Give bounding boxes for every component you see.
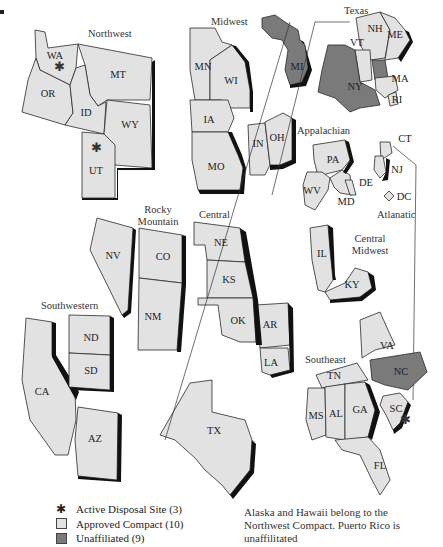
state-ms: MS: [308, 410, 323, 421]
region-atlantic: [374, 142, 416, 434]
unaffiliated-swatch-icon: [52, 533, 70, 544]
approved-swatch-icon: [52, 518, 70, 529]
legend-item-unaffiliated: Unaffiliated (9): [52, 531, 184, 546]
region-central: [194, 222, 294, 378]
state-ne: NE: [214, 237, 228, 248]
state-md: MD: [338, 196, 355, 207]
region-southwestern: [22, 315, 122, 482]
state-tn: TN: [327, 370, 341, 381]
region-label-appalachian: Appalachian: [297, 125, 350, 137]
legend-label: Approved Compact (10): [76, 518, 184, 530]
state-nd: ND: [83, 332, 98, 343]
region-label-central-midwest: Central Midwest: [345, 233, 395, 257]
region-label-southwestern: Southwestern: [41, 300, 98, 312]
state-fl: FL: [374, 460, 386, 471]
state-wi: WI: [224, 75, 237, 86]
state-oh: OH: [269, 132, 284, 143]
state-va: VA: [380, 340, 394, 351]
state-nv: NV: [105, 250, 120, 261]
legend-label: Active Disposal Site (3): [76, 503, 182, 515]
state-ny: NY: [347, 81, 362, 92]
state-la: LA: [264, 357, 278, 368]
legend-item-approved: Approved Compact (10): [52, 517, 184, 532]
state-dc: DC: [397, 191, 412, 202]
state-vt: VT: [350, 37, 364, 48]
state-mo: MO: [208, 161, 225, 172]
state-sd: SD: [84, 365, 97, 376]
disposal-site-ut-icon: ✱: [91, 140, 102, 156]
state-nj: NJ: [391, 164, 403, 175]
legend: ✱ Active Disposal Site (3) Approved Comp…: [52, 502, 184, 546]
footnote: Alaska and Hawaii belong to the Northwes…: [244, 506, 424, 545]
state-ca: CA: [35, 386, 50, 397]
state-ga: GA: [352, 404, 367, 415]
state-ri: RI: [392, 94, 403, 105]
state-in: IN: [252, 138, 263, 149]
state-nc: NC: [394, 366, 409, 377]
state-il: IL: [317, 248, 327, 259]
state-ia: IA: [203, 114, 214, 125]
state-or: OR: [41, 88, 56, 99]
region-label-texas: Texas: [344, 5, 368, 17]
state-pa: PA: [327, 154, 339, 165]
disposal-site-wa-icon: ✱: [54, 59, 65, 75]
state-nh: NH: [367, 23, 382, 34]
state-de: DE: [359, 177, 373, 188]
legend-label: Unaffiliated (9): [76, 532, 145, 544]
state-id: ID: [80, 107, 91, 118]
state-ky: KY: [344, 279, 359, 290]
state-me: ME: [387, 29, 403, 40]
state-mn: MN: [195, 61, 212, 72]
region-label-southeast: Southeast: [305, 354, 346, 366]
state-mt: MT: [110, 69, 126, 80]
state-ma: MA: [392, 73, 409, 84]
state-ct: CT: [398, 133, 411, 144]
region-label-atlantic: Atlanatic: [377, 209, 415, 221]
state-ok: OK: [230, 315, 245, 326]
region-label-northwest: Northwest: [88, 28, 132, 40]
region-label-rocky-mountain: Rocky Mountain: [132, 204, 184, 228]
region-label-central: Central: [199, 209, 230, 221]
state-al: AL: [329, 408, 343, 419]
state-ks: KS: [222, 274, 235, 285]
state-wv: WV: [303, 185, 321, 196]
state-wy: WY: [121, 119, 139, 130]
state-nm: NM: [145, 311, 162, 322]
state-co: CO: [156, 251, 171, 262]
state-ar: AR: [263, 319, 278, 330]
asterisk-icon: ✱: [52, 502, 70, 517]
state-ut: UT: [89, 165, 103, 176]
region-label-midwest: Midwest: [211, 16, 248, 28]
state-mi: MI: [291, 61, 304, 72]
disposal-site-sc-icon: ✱: [400, 412, 411, 428]
legend-item-active-site: ✱ Active Disposal Site (3): [52, 502, 184, 517]
state-tx: TX: [207, 425, 221, 436]
state-az: AZ: [88, 433, 102, 444]
